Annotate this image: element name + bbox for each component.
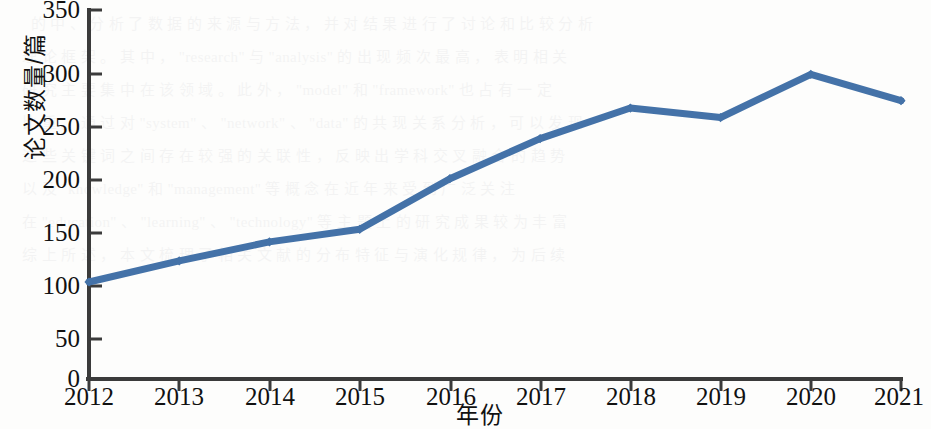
y-tick-50: 50	[28, 326, 80, 351]
line-chart: 350 300 250 200 150 100 50 0 2012 2013 2…	[0, 0, 931, 429]
y-tick-100: 100	[28, 273, 80, 298]
x-tick-2021: 2021	[844, 383, 931, 411]
y-tick-150: 150	[28, 220, 80, 245]
x-axis-title: 年份	[420, 404, 540, 427]
chart-plot-svg	[0, 0, 931, 429]
y-axis-title: 论文数量/篇	[24, 0, 47, 212]
data-series-line	[89, 74, 901, 282]
